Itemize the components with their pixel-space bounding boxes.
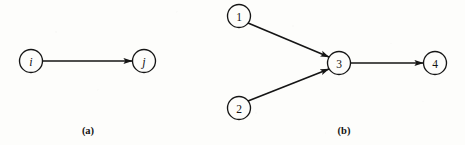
node-3[interactable]: 3 <box>328 52 351 75</box>
node-label-i: i <box>29 55 32 69</box>
node-i[interactable]: i <box>20 50 43 73</box>
figure-root: i j (a) 1 2 <box>0 0 465 145</box>
caption-a: (a) <box>82 125 95 137</box>
edge-2-to-3 <box>248 69 329 101</box>
node-label-2: 2 <box>236 103 242 115</box>
node-j[interactable]: j <box>133 50 156 73</box>
node-4[interactable]: 4 <box>424 52 447 75</box>
node-label-1: 1 <box>236 11 242 23</box>
panel-b: 1 2 3 4 (b) <box>228 5 447 137</box>
node-label-3: 3 <box>336 58 342 70</box>
edge-1-to-3 <box>248 23 329 57</box>
edge-line-2-3 <box>248 69 329 101</box>
node-1[interactable]: 1 <box>228 5 251 28</box>
node-label-4: 4 <box>432 58 438 70</box>
caption-b: (b) <box>338 125 351 137</box>
edge-line-1-3 <box>248 23 329 57</box>
panel-a: i j (a) <box>20 50 156 137</box>
node-2[interactable]: 2 <box>228 97 251 120</box>
directed-graph-figure: i j (a) 1 2 <box>0 0 465 145</box>
